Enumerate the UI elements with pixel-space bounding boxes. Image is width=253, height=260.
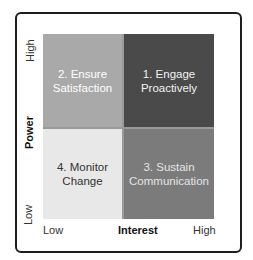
x-axis-high-label: High xyxy=(193,224,216,236)
quadrant-ensure-satisfaction: 2. Ensure Satisfaction xyxy=(43,34,122,127)
power-interest-grid: 2. Ensure Satisfaction 1. Engage Proacti… xyxy=(43,34,214,219)
quadrant-label: 1. Engage Proactively xyxy=(141,67,197,95)
quadrant-engage-proactively: 1. Engage Proactively xyxy=(124,34,214,127)
x-axis-low-label: Low xyxy=(43,224,63,236)
x-axis-title: Interest xyxy=(118,224,158,236)
quadrant-monitor-change: 4. Monitor Change xyxy=(43,129,122,219)
quadrant-sustain-communication: 3. Sustain Communication xyxy=(124,129,214,219)
quadrant-label: 2. Ensure Satisfaction xyxy=(53,67,112,95)
y-axis-low-label: Low xyxy=(22,195,36,225)
y-axis-high-label: High xyxy=(24,32,38,62)
quadrant-label: 3. Sustain Communication xyxy=(129,160,209,188)
y-axis-title: Power xyxy=(23,109,37,149)
quadrant-label: 4. Monitor Change xyxy=(57,160,108,188)
